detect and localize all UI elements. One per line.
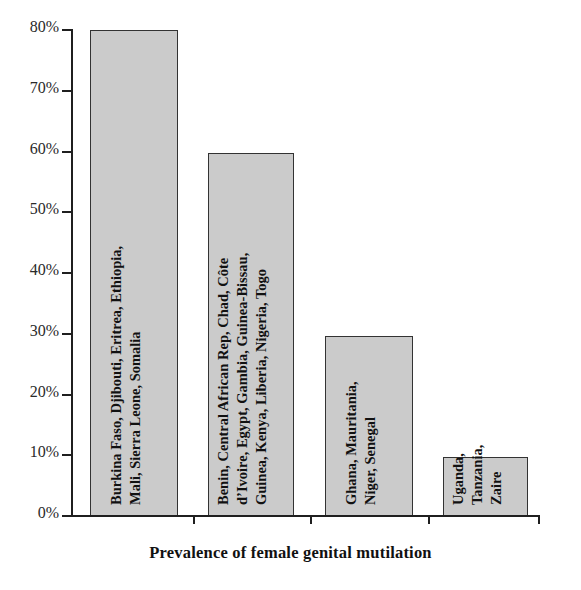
y-axis-tick-mark (62, 151, 73, 153)
x-axis-title: Prevalence of female genital mutilation (0, 543, 581, 563)
y-axis-tick-mark (62, 333, 73, 335)
bar-label-line: Tanzania, (468, 445, 486, 505)
bar[interactable]: Ghana, Mauritania,Niger, Senegal (325, 336, 413, 516)
y-axis-tick-mark (62, 90, 73, 92)
bar-label-line: Zaire (487, 471, 505, 505)
bar-label-line: d’Ivoire, Egypt, Gambia, Guinea-Bissau, (233, 253, 251, 505)
y-axis-tick-label: 50% (30, 201, 59, 217)
x-axis-tick-mark (310, 515, 312, 524)
x-axis-tick-mark (538, 515, 540, 524)
bar-label-line: Uganda, (449, 453, 467, 505)
bar[interactable]: Burkina Faso, Djibouti, Eritrea, Ethiopi… (90, 30, 178, 516)
x-axis-tick-mark (428, 515, 430, 524)
x-axis-line (71, 515, 540, 517)
bar-label-line: Guinea, Kenya, Liberia, Nigeria, Togo (252, 269, 270, 505)
bar-label-line: Burkina Faso, Djibouti, Eritrea, Ethiopi… (107, 246, 125, 505)
y-axis-tick-mark (62, 394, 73, 396)
y-axis-tick-label: 60% (30, 141, 59, 157)
y-axis-tick-label: 70% (30, 80, 59, 96)
y-axis-tick-mark (62, 29, 73, 31)
y-axis-tick-label: 80% (30, 19, 59, 35)
y-axis-tick-label: 30% (30, 323, 59, 339)
bar[interactable]: Uganda,Tanzania,Zaire (443, 457, 528, 516)
y-axis-tick-mark (62, 272, 73, 274)
y-axis-tick-mark (62, 454, 73, 456)
y-axis-tick-label: 0% (38, 505, 59, 521)
x-axis-tick-mark (193, 515, 195, 524)
y-axis-tick-label: 10% (30, 444, 59, 460)
bar[interactable]: Benin, Central African Rep, Chad, Côted’… (208, 153, 294, 516)
bar-label-line: Mali, Sierra Leone, Somalia (126, 331, 144, 505)
bar-label-line: Niger, Senegal (361, 417, 379, 505)
bar-label-line: Benin, Central African Rep, Chad, Côte (214, 258, 232, 505)
bar-chart: 0%10%20%30%40%50%60%70%80% Burkina Faso,… (0, 0, 581, 590)
y-axis-tick-label: 20% (30, 384, 59, 400)
y-axis-tick-label: 40% (30, 262, 59, 278)
y-axis-tick-mark (62, 211, 73, 213)
bar-label-line: Ghana, Mauritania, (342, 381, 360, 505)
